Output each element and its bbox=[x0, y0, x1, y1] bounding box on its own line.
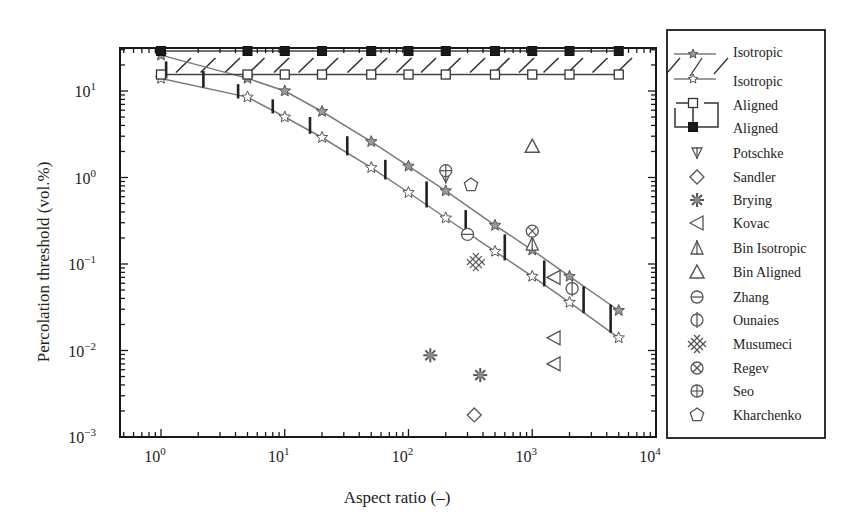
square-open-marker bbox=[528, 70, 537, 79]
y-tick-label: 10−3 bbox=[68, 426, 96, 446]
square-open-marker bbox=[441, 70, 450, 79]
triangle-left-marker bbox=[547, 270, 560, 284]
plot-frame bbox=[120, 48, 656, 437]
aligned-hatch bbox=[593, 58, 608, 73]
y-tick-label: 10−2 bbox=[68, 340, 96, 360]
legend-label-musumeci: Musumeci bbox=[733, 337, 792, 352]
legend-label-kovac: Kovac bbox=[733, 216, 770, 231]
x-tick-label: 101 bbox=[268, 445, 290, 465]
y-tick-label: 10−1 bbox=[68, 253, 96, 273]
star-marker bbox=[279, 111, 291, 122]
square-open-marker bbox=[565, 70, 574, 79]
x-tick-label: 104 bbox=[639, 445, 661, 465]
aligned-hatch bbox=[201, 58, 216, 73]
triangle-left-marker bbox=[547, 331, 560, 345]
axes: 10010110210310410110010−110−210−3 bbox=[68, 48, 661, 465]
square-open-marker bbox=[243, 70, 252, 79]
asterisk-center bbox=[477, 372, 483, 378]
chart-root: 10010110210310410110010−110−210−3 Aspect… bbox=[0, 0, 857, 528]
asterisk-center bbox=[694, 197, 700, 203]
aligned-hatch bbox=[299, 58, 314, 73]
square-filled-marker bbox=[689, 123, 698, 132]
x-tick-label: 103 bbox=[516, 445, 538, 465]
pentagon-marker bbox=[464, 178, 477, 191]
legend-label-kharchenko: Kharchenko bbox=[733, 408, 801, 423]
aligned-hatch bbox=[544, 58, 559, 73]
square-open-marker bbox=[157, 70, 166, 79]
star-marker bbox=[279, 85, 291, 96]
legend-label-aligned: Aligned bbox=[733, 98, 778, 113]
legend-label-bin-aligned: Bin Aligned bbox=[733, 265, 801, 280]
legend-label-bin-isotropic: Bin Isotropic bbox=[733, 241, 807, 256]
square-open-marker bbox=[490, 70, 499, 79]
diamond-marker bbox=[467, 408, 481, 422]
legend-label-sandler: Sandler bbox=[733, 170, 776, 185]
star-marker bbox=[613, 305, 625, 316]
legend: IsotropicIsotropicAlignedAlignedPotschke… bbox=[667, 30, 825, 438]
square-open-marker bbox=[367, 70, 376, 79]
series-line bbox=[161, 78, 619, 338]
y-tick-label: 101 bbox=[75, 80, 97, 100]
legend-label-seo: Seo bbox=[733, 384, 754, 399]
triangle-up-marker bbox=[525, 139, 539, 152]
plot-area bbox=[155, 47, 632, 422]
percolation-chart: 10010110210310410110010−110−210−3 Aspect… bbox=[0, 0, 857, 528]
aligned-hatch bbox=[348, 58, 363, 73]
legend-label-regev: Regev bbox=[733, 361, 769, 376]
x-tick-label: 100 bbox=[144, 445, 166, 465]
legend-label-brying: Brying bbox=[733, 193, 772, 208]
legend-label-ounaies: Ounaies bbox=[733, 313, 779, 328]
aligned-hatch bbox=[421, 58, 436, 73]
y-tick-label: 100 bbox=[75, 167, 97, 187]
legend-label-potschke: Potschke bbox=[733, 146, 784, 161]
legend-label-zhang: Zhang bbox=[733, 290, 769, 305]
aligned-hatch bbox=[470, 58, 485, 73]
legend-label-isotropic: Isotropic bbox=[733, 45, 783, 60]
square-open-marker bbox=[404, 70, 413, 79]
square-open-marker bbox=[318, 70, 327, 79]
square-open-marker bbox=[280, 70, 289, 79]
star-marker bbox=[613, 332, 625, 343]
x-tick-label: 102 bbox=[392, 445, 414, 465]
triangle-left-marker bbox=[547, 357, 560, 371]
square-open-marker bbox=[614, 70, 623, 79]
aligned-hatch bbox=[225, 58, 240, 73]
x-axis-label: Aspect ratio (–) bbox=[344, 488, 451, 507]
y-axis-label: Percolation threshold (vol.%) bbox=[34, 162, 53, 363]
legend-label-isotropic: Isotropic bbox=[733, 74, 783, 89]
legend-box bbox=[667, 30, 825, 438]
asterisk-center bbox=[427, 352, 433, 358]
legend-label-aligned: Aligned bbox=[733, 121, 778, 136]
star-marker bbox=[242, 91, 253, 102]
square-open-marker bbox=[689, 99, 698, 108]
